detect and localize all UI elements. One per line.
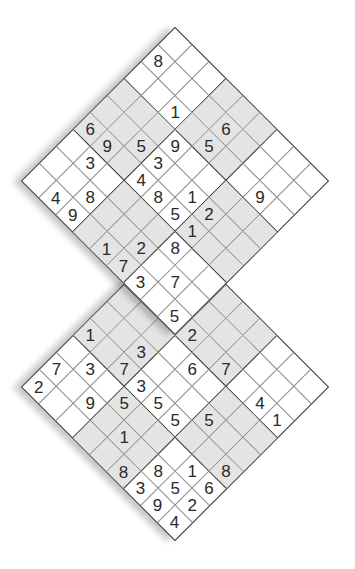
given-digit: 9 [170, 138, 179, 155]
given-digit: 1 [187, 223, 196, 240]
given-digit: 2 [136, 240, 145, 257]
given-digit: 8 [153, 463, 162, 480]
given-digit: 4 [255, 395, 264, 412]
given-digit: 2 [188, 497, 197, 514]
given-digit: 7 [170, 274, 179, 291]
given-digit: 5 [119, 395, 128, 412]
given-digit: 4 [51, 189, 60, 206]
given-digit: 2 [34, 378, 43, 395]
given-digit: 5 [204, 412, 213, 429]
given-digit: 5 [204, 138, 213, 155]
given-digit: 1 [187, 189, 196, 206]
given-digit: 1 [119, 429, 128, 446]
given-digit: 9 [68, 206, 77, 223]
given-digit: 9 [153, 497, 162, 514]
upper-sudoku-grid-wrapper: 861599531269485138827491735 [66, 72, 284, 290]
given-digit: 8 [153, 53, 162, 70]
given-digit: 1 [187, 463, 196, 480]
given-digit: 1 [85, 327, 94, 344]
given-digit: 2 [187, 327, 196, 344]
given-digit: 4 [170, 514, 179, 531]
upper-sudoku-grid: 861599531269485138827491735 [21, 27, 329, 335]
given-digit: 1 [170, 104, 179, 121]
given-digit: 9 [102, 138, 111, 155]
given-digit: 1 [102, 240, 111, 257]
given-digit: 7 [51, 361, 60, 378]
given-digit: 7 [221, 361, 230, 378]
given-digit: 6 [221, 121, 230, 138]
given-digit: 5 [170, 412, 179, 429]
given-digit: 5 [136, 138, 145, 155]
given-digit: 3 [136, 344, 145, 361]
given-digit: 7 [119, 257, 128, 274]
given-digit: 8 [85, 189, 94, 206]
given-digit: 8 [119, 463, 128, 480]
given-digit: 3 [136, 480, 145, 497]
given-digit: 6 [85, 121, 94, 138]
given-digit: 6 [205, 480, 214, 497]
given-digit: 1 [272, 412, 281, 429]
given-digit: 9 [85, 395, 94, 412]
given-digit: 3 [85, 361, 94, 378]
given-digit: 3 [85, 155, 94, 172]
given-digit: 5 [170, 308, 179, 325]
given-digit: 5 [153, 395, 162, 412]
given-digit: 5 [170, 206, 179, 223]
given-digit: 3 [153, 155, 162, 172]
given-digit: 8 [170, 240, 179, 257]
given-digit: 2 [204, 206, 213, 223]
given-digit: 6 [187, 361, 196, 378]
given-digit: 7 [119, 361, 128, 378]
given-digit: 3 [136, 378, 145, 395]
given-digit: 5 [170, 480, 179, 497]
given-digit: 3 [136, 274, 145, 291]
given-digit: 8 [153, 189, 162, 206]
given-digit: 9 [255, 189, 264, 206]
given-digit: 8 [222, 463, 231, 480]
given-digit: 4 [136, 172, 145, 189]
